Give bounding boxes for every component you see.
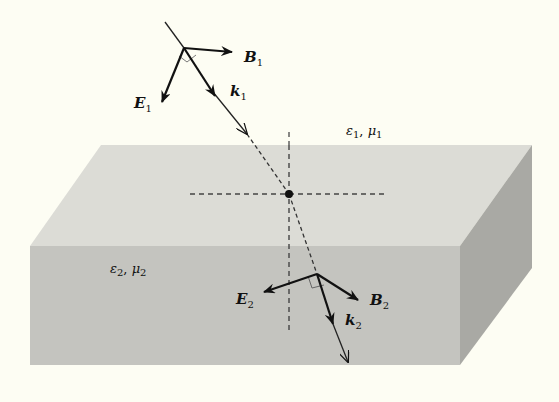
block-top-face: [30, 145, 532, 246]
incident-ray-tail: [165, 22, 184, 48]
label-e1: E1: [133, 94, 152, 114]
b1-arrow: [184, 48, 232, 52]
label-b1: B1: [243, 48, 263, 68]
label-medium-1: ε1, μ1: [346, 123, 382, 140]
label-k1: k1: [230, 82, 247, 102]
refraction-diagram: B1 E1 k1 ε1, μ1 ε2, μ2 E2 B2 k2: [0, 0, 559, 402]
e1-arrow: [162, 48, 184, 102]
incidence-point: [285, 190, 293, 198]
k1-arrow: [184, 48, 215, 96]
incident-wave: [162, 22, 247, 134]
medium-2-block: [30, 145, 532, 365]
